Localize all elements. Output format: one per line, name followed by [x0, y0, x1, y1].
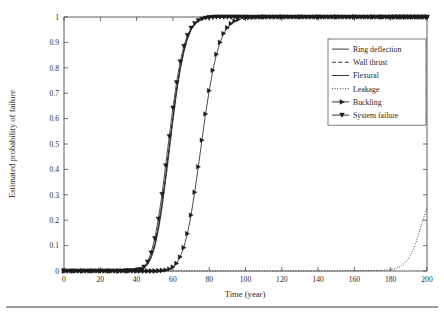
y-tick-label: 0.3 [50, 191, 60, 200]
y-tick-label: 0.6 [50, 114, 60, 123]
y-tick-label: 0.8 [50, 64, 60, 73]
x-tick-label: 40 [133, 275, 141, 284]
probability-of-failure-chart: 020406080100120140160180200 00.10.20.30.… [0, 0, 444, 314]
figure-container: 020406080100120140160180200 00.10.20.30.… [0, 0, 444, 314]
x-axis-title: Time (year) [225, 289, 266, 299]
legend-label: Flexural [353, 71, 380, 80]
x-tick-label: 180 [385, 275, 397, 284]
legend-label: System failure [353, 111, 399, 120]
x-tick-label: 0 [62, 275, 66, 284]
y-tick-label: 0.7 [50, 89, 60, 98]
y-tick-label: 1 [55, 13, 59, 22]
x-tick-label: 60 [169, 275, 177, 284]
x-tick-label: 100 [240, 275, 252, 284]
x-tick-label: 160 [349, 275, 361, 284]
y-tick-label: 0.9 [50, 38, 60, 47]
chart-legend[interactable]: Ring deflectionWall thrustFlexuralLeakag… [328, 39, 426, 125]
x-tick-label: 80 [205, 275, 213, 284]
legend-label: Buckling [353, 98, 382, 107]
legend-label: Leakage [353, 85, 380, 94]
x-tick-label: 20 [97, 275, 105, 284]
y-tick-label: 0 [55, 267, 59, 276]
legend-label: Wall thrust [353, 58, 388, 67]
x-tick-label: 200 [421, 275, 433, 284]
x-tick-label: 140 [312, 275, 324, 284]
y-tick-label: 0.2 [50, 216, 60, 225]
y-tick-label: 0.5 [50, 140, 60, 149]
legend-label: Ring deflection [353, 45, 401, 54]
y-axis-title: Estimated probability of failure [7, 90, 17, 198]
y-tick-label: 0.4 [50, 165, 60, 174]
y-tick-label: 0.1 [50, 241, 60, 250]
x-tick-label: 120 [276, 275, 288, 284]
